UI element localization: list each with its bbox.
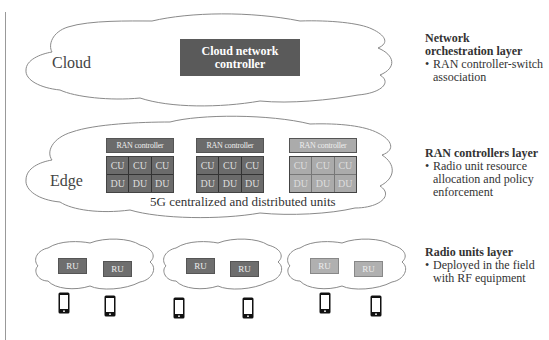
cu-cell: CU [219,157,240,174]
cu-cell: CU [129,157,150,174]
radio-unit: RU [58,258,87,274]
units-caption: 5G centralized and distributed units [150,194,336,210]
cu-cell: CU [242,157,263,174]
edge-layer-label: Edge [50,172,83,190]
radio-cluster-shape-2 [164,239,282,289]
cu-cell: CU [107,157,128,174]
cu-cell: CU [312,157,333,174]
radio-unit: RU [354,261,383,277]
bullet-icon: • [425,160,433,173]
smartphone-icon [58,292,70,314]
bullet-icon: • [425,58,433,71]
cu-cell: CU [335,157,356,174]
cloud-layer-label: Cloud [52,54,91,72]
radio-unit: RU [230,261,259,277]
smartphone-icon [242,297,254,319]
smartphone-icon [173,297,185,319]
side-note-bullet: association [433,71,486,84]
ran-controller-group-3: RAN controller CU CU CU DU DU DU [289,138,357,193]
du-cell: DU [219,175,240,192]
ran-controller-header: RAN controller [196,138,264,153]
smartphone-icon [319,292,331,314]
du-cell: DU [197,175,218,192]
ran-controller-group-1: RAN controller CU CU CU DU DU DU [106,138,174,193]
du-cell: DU [290,175,311,192]
du-cell: DU [152,175,173,192]
radio-cluster-shape-3 [288,239,406,289]
du-cell: DU [335,175,356,192]
smartphone-icon [104,295,116,317]
du-cell: DU [129,175,150,192]
radio-unit: RU [310,258,339,274]
radio-unit: RU [103,261,132,277]
smartphone-icon [370,295,382,317]
cu-cell: CU [290,157,311,174]
bullet-icon: • [425,259,433,272]
side-note-radio: Radio units layer •Deployed in the field… [425,246,535,285]
radio-unit: RU [186,258,215,274]
du-cell: DU [107,175,128,192]
side-note-ran: RAN controllers layer •Radio unit resour… [425,147,538,199]
cu-cell: CU [152,157,173,174]
side-note-bullet: with RF equipment [433,272,526,285]
du-cell: DU [312,175,333,192]
side-note-bullet: enforcement [433,186,493,199]
cu-cell: CU [197,157,218,174]
radio-cluster-shape-1 [36,239,154,289]
du-cell: DU [242,175,263,192]
ran-controller-header: RAN controller [106,138,174,153]
ran-controller-group-2: RAN controller CU CU CU DU DU DU [196,138,264,193]
ran-controller-header: RAN controller [289,138,357,153]
cloud-network-controller-box: Cloud network controller [180,39,300,76]
cloud-controller-label: Cloud network controller [180,45,300,71]
side-note-orchestration: Network orchestration layer •RAN control… [425,32,543,84]
